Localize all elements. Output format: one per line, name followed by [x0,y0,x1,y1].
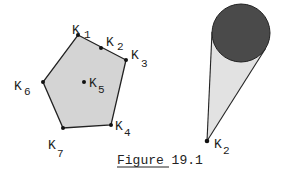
point-k3 [124,58,128,62]
point-k4-subscript: 4 [124,127,131,139]
point-k7 [61,126,65,130]
figure-19-1: K1K2K3K4K7K6K5K2Figure 19.1 Figure 19.1 [0,0,287,179]
point-apex-k2-subscript: 2 [223,145,230,157]
point-apex-k2-label: K [214,137,222,152]
point-k7-subscript: 7 [57,148,64,160]
figure-diagram: K1K2K3K4K7K6K5K2Figure 19.1 [0,0,287,179]
point-k1-subscript: 1 [84,29,91,41]
point-k4 [109,123,113,127]
point-k5-label: K [89,76,97,91]
point-k1-label: K [72,23,80,38]
point-k3-subscript: 3 [141,58,148,70]
point-k2 [99,46,103,50]
point-k5-subscript: 5 [98,84,105,96]
point-k5 [82,80,86,84]
point-k2-label: K [106,35,114,50]
figure-caption: Figure 19.1 [117,153,203,168]
point-k3-label: K [131,48,139,63]
dark-disc [212,4,270,62]
point-k6-label: K [14,79,22,94]
point-k6-subscript: 6 [24,86,31,98]
point-k6 [41,80,45,84]
point-k2-subscript: 2 [117,41,124,53]
point-apex-k2 [205,139,210,144]
point-k7-label: K [48,138,56,153]
point-k4-label: K [115,119,123,134]
